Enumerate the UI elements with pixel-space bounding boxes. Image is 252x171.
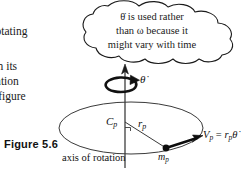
circular-path-ellipse	[59, 102, 203, 154]
cloud-callout-text: θ̇ is used rather than ω because it migh…	[82, 10, 222, 52]
label-radius-subscript: p	[142, 122, 146, 131]
label-center-point-subscript: p	[113, 120, 117, 129]
label-mass: mp	[158, 151, 169, 164]
label-radius: rp	[138, 117, 146, 131]
cloud-text-line-1: θ̇ is used rather	[82, 10, 222, 24]
cloud-text-line-2: than ω because it	[82, 24, 222, 38]
velocity-equals: =	[213, 129, 224, 140]
cloud-text-line-3: might vary with time	[82, 38, 222, 52]
label-mass-subscript: p	[165, 156, 169, 164]
velocity-thetadot-symbol: θ̇	[232, 129, 237, 140]
label-axis-of-rotation: axis of rotation	[62, 152, 126, 163]
label-theta-dot-axis: θ̇	[140, 73, 145, 85]
label-velocity-equation: Vp = rpθ̇	[203, 129, 237, 142]
figure-page: y rotating ng in its rotation θ̇ (figure…	[0, 0, 252, 171]
right-angle-marker	[125, 128, 131, 132]
label-center-point: Cp	[106, 115, 117, 129]
